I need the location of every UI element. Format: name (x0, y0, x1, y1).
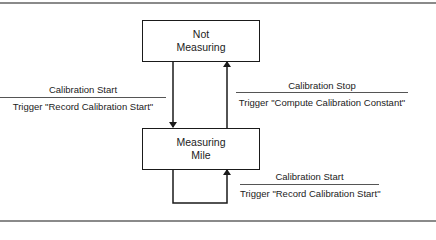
transition-action-record-start: Trigger "Record Calibration Start" (0, 101, 166, 112)
transition-action-compute-constant: Trigger "Compute Calibration Constant" (236, 97, 408, 108)
transition-divider (0, 97, 166, 98)
transition-event-calibration-start: Calibration Start (0, 84, 166, 95)
state-label-line2: Mile (191, 149, 210, 162)
arrow-self-loop (173, 169, 227, 203)
transition-event-calibration-start-loop: Calibration Start (240, 171, 379, 182)
transition-divider (236, 92, 408, 93)
state-measuring-mile: Measuring Mile (142, 128, 260, 170)
transition-divider (240, 184, 379, 185)
transition-action-record-start-loop: Trigger "Record Calibration Start" (240, 188, 379, 199)
transition-event-calibration-stop: Calibration Stop (236, 80, 408, 91)
state-label-line2: Measuring (176, 41, 225, 54)
state-not-measuring: Not Measuring (142, 20, 260, 62)
state-label-line1: Measuring (176, 136, 225, 149)
state-label-line1: Not (193, 28, 209, 41)
